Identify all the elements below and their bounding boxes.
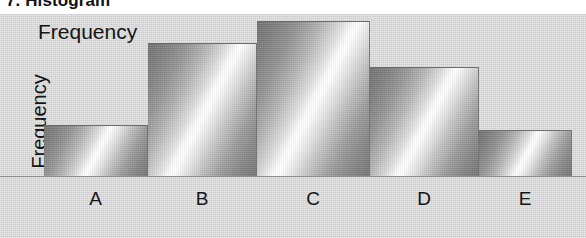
x-axis-tick-label: D	[370, 188, 478, 210]
x-axis-tick-label: E	[479, 188, 571, 210]
histogram-figure-page: 7. Histogram Frequency Frequency ABCDE	[0, 0, 586, 238]
histogram-bar	[257, 21, 370, 176]
histogram-bar	[148, 43, 257, 176]
x-axis-tick-label: A	[44, 188, 147, 210]
histogram-bar	[370, 67, 479, 176]
x-axis-baseline	[0, 176, 586, 177]
chart-plot-area: Frequency Frequency ABCDE	[0, 14, 586, 238]
histogram-bar	[44, 125, 148, 176]
histogram-bar	[479, 130, 572, 176]
page-title: 7. Histogram	[6, 0, 110, 11]
x-axis-tick-label: C	[257, 188, 369, 210]
frequency-top-label: Frequency	[38, 20, 137, 44]
x-axis-tick-label: B	[148, 188, 256, 210]
